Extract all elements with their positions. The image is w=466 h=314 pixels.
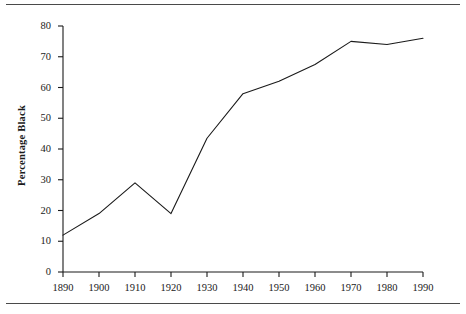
axis-group: [58, 26, 423, 277]
data-line-percentage-black: [63, 38, 423, 235]
data-series-group: [63, 38, 423, 235]
line-chart-plot: [0, 0, 466, 314]
figure-container: Percentage Black 01020304050607080189019…: [0, 0, 466, 314]
